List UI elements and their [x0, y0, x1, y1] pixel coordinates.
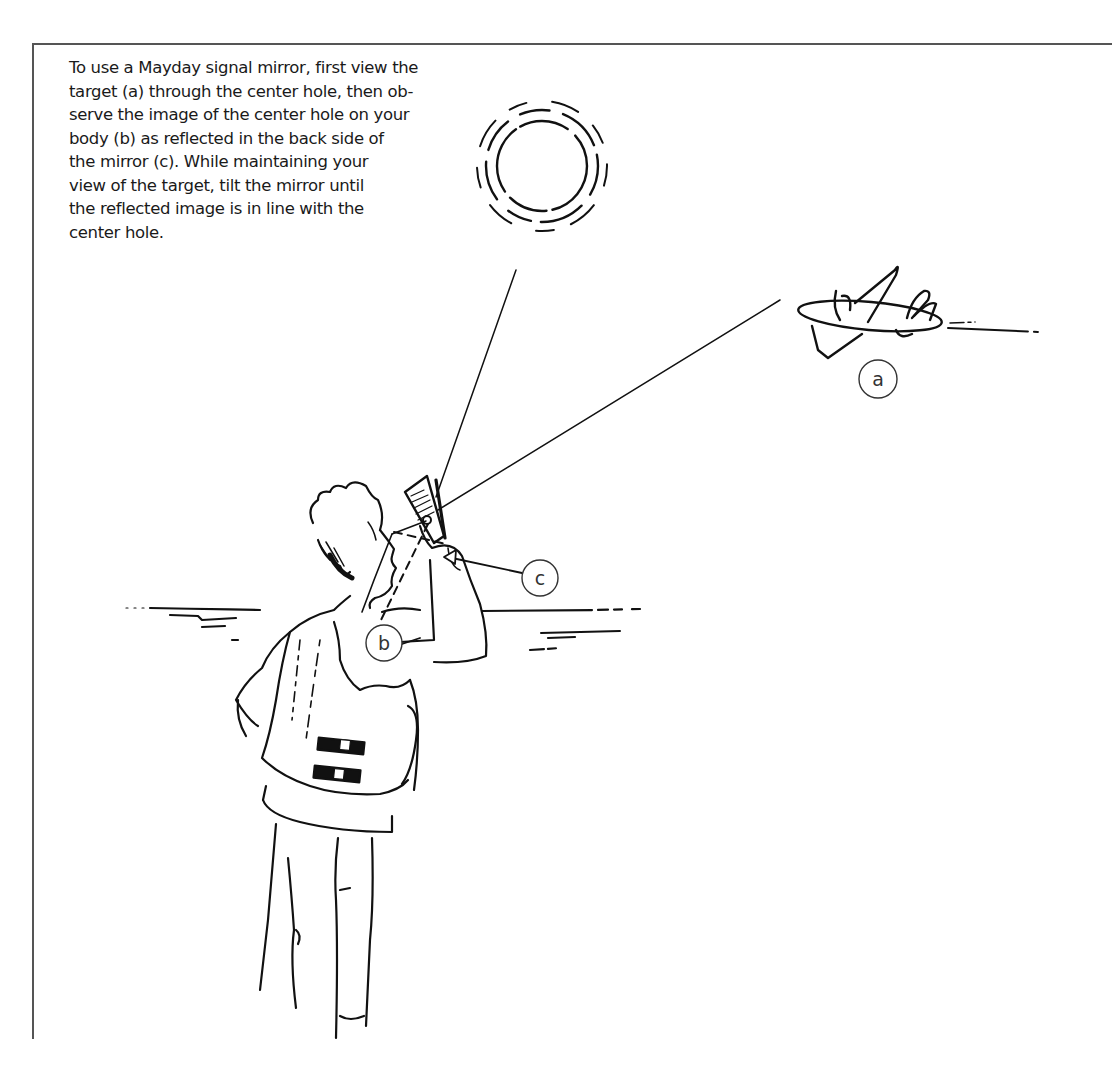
sun-icon: [477, 101, 607, 231]
airplane-icon: [797, 267, 1040, 358]
callout-c: c: [522, 560, 558, 596]
callout-b: b: [366, 625, 402, 661]
person-with-life-vest-icon: [236, 482, 486, 1038]
callout-c-label: c: [535, 567, 545, 589]
callout-a-label: a: [872, 368, 884, 390]
sight-lines: [392, 270, 780, 534]
signal-mirror-illustration: a b c: [0, 0, 1112, 1081]
callout-b-label: b: [378, 632, 390, 654]
callout-a: a: [859, 360, 897, 398]
callout-leaders: [402, 550, 522, 644]
signal-mirror-icon: [405, 476, 445, 543]
